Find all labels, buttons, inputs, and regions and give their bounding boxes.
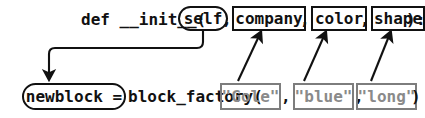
arg-label-blue: "blue" xyxy=(295,89,353,105)
comma-after-color: , xyxy=(360,12,370,28)
param-label-company: company xyxy=(235,11,302,27)
colon-top: : xyxy=(416,12,425,28)
arrow-self-to-newblock xyxy=(49,31,203,75)
arg-label-gole: "Gole" xyxy=(222,89,280,105)
arrow-long-to-shape xyxy=(371,36,389,81)
arrow-gole-to-company xyxy=(238,36,259,81)
close-paren-bottom: ) xyxy=(411,89,421,105)
arg-box-blue: "blue" xyxy=(293,83,354,110)
token-newblock-label: newblock = xyxy=(26,89,122,105)
token-self: self xyxy=(178,6,228,31)
param-label-color: color xyxy=(315,11,363,27)
param-box-color: color xyxy=(311,6,367,31)
token-self-label: self xyxy=(184,11,223,27)
arg-box-gole: "Gole" xyxy=(220,83,281,110)
diagram-canvas: def __init__( self , company , color , s… xyxy=(0,0,425,118)
comma-after-self: , xyxy=(222,12,232,28)
close-paren-top: ) xyxy=(406,12,416,28)
comma-after-company: , xyxy=(300,12,310,28)
param-box-company: company xyxy=(232,6,306,31)
arg-label-long: "long" xyxy=(358,89,416,105)
arg-box-long: "long" xyxy=(356,83,417,110)
token-newblock-assign: newblock = xyxy=(22,83,126,110)
arrow-blue-to-color xyxy=(304,36,324,81)
comma-after-gole: , xyxy=(281,89,291,105)
